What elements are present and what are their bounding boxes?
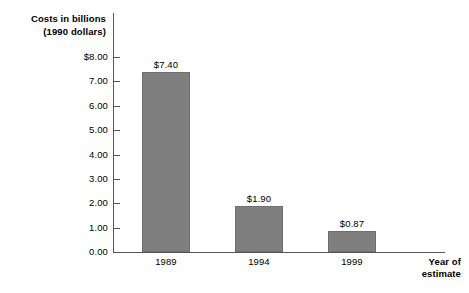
- y-axis-title-line-1: Costs in billions: [6, 13, 106, 26]
- y-axis-tick-label: 5.00: [54, 125, 108, 135]
- y-axis-tick-label: $8.00: [54, 52, 108, 62]
- x-axis-line: [113, 252, 445, 253]
- x-axis-tick-label: 1999: [312, 256, 392, 267]
- bar: [328, 231, 376, 252]
- x-axis-title: Year of estimate: [385, 256, 461, 280]
- y-axis-tick: [114, 203, 120, 204]
- y-axis-tick: [114, 57, 120, 58]
- bar-chart: Costs in billions (1990 dollars) $8.007.…: [0, 0, 469, 293]
- y-axis-tick: [114, 228, 120, 229]
- y-axis-tick: [114, 252, 120, 253]
- x-axis-title-line-2: estimate: [385, 268, 461, 280]
- x-axis-tick-label: 1994: [219, 256, 299, 267]
- y-axis-tick-label: 0.00: [54, 247, 108, 257]
- y-axis-tick-label: 7.00: [54, 76, 108, 86]
- y-axis-tick: [114, 130, 120, 131]
- y-axis-tick-label: 2.00: [54, 198, 108, 208]
- y-axis-tick-label: 4.00: [54, 150, 108, 160]
- bar: [235, 206, 283, 252]
- bar-value-label: $1.90: [219, 193, 299, 204]
- bar-value-label: $7.40: [126, 59, 206, 70]
- y-axis-tick-label: 1.00: [54, 223, 108, 233]
- bar-value-label: $0.87: [312, 218, 392, 229]
- y-axis-tick: [114, 81, 120, 82]
- y-axis-line: [113, 13, 114, 252]
- y-axis-tick: [114, 106, 120, 107]
- x-axis-tick-label: 1989: [126, 256, 206, 267]
- y-axis-title: Costs in billions (1990 dollars): [6, 13, 106, 38]
- bar: [142, 72, 190, 252]
- y-axis-tick-label: 3.00: [54, 174, 108, 184]
- x-axis-title-line-1: Year of: [385, 256, 461, 268]
- y-axis-tick: [114, 179, 120, 180]
- y-axis-tick-label: 6.00: [54, 101, 108, 111]
- y-axis-tick: [114, 155, 120, 156]
- y-axis-title-line-2: (1990 dollars): [6, 26, 106, 39]
